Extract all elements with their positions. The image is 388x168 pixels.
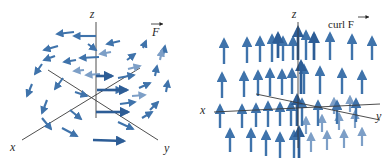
y-axis-label-right: y	[375, 109, 382, 123]
vector-field-panel: z x y F	[0, 0, 194, 168]
axes-group-left	[22, 22, 158, 140]
figure-curl-of-vector-field: z x y F	[0, 0, 388, 168]
field-label-F-text: F	[151, 25, 160, 39]
y-axis-label-left: y	[163, 141, 170, 155]
field-label-F: F	[151, 22, 163, 39]
vector-accent-curl-F-head	[366, 15, 370, 19]
vector-arrows-left	[27, 32, 168, 141]
z-axis-label-right: z	[291, 7, 297, 21]
x-axis-label-left: x	[9, 140, 16, 154]
field-label-curl-F-text: curl F	[328, 18, 354, 30]
curl-arrows-mid	[220, 32, 372, 158]
z-axis-label-left: z	[89, 7, 95, 21]
vector-accent-F-head	[160, 22, 164, 26]
curl-field-panel: z x y curl F	[194, 0, 388, 168]
x-axis-label-right: x	[199, 103, 206, 117]
field-label-curl-F: curl F	[328, 15, 369, 30]
